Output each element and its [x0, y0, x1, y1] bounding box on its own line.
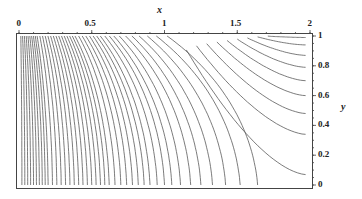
contour-line: [119, 36, 180, 185]
y-tick-label: 0.2: [318, 150, 329, 159]
contour-line: [197, 46, 306, 135]
y-tick-label: 0.8: [318, 61, 329, 70]
x-tick-label: 0.5: [85, 19, 96, 28]
x-tick-label: 0: [17, 19, 22, 28]
contour-line: [247, 38, 305, 56]
contour-line: [258, 37, 306, 45]
contour-line: [114, 36, 172, 185]
y-tick-label: 1: [318, 31, 323, 40]
y-axis-ticks: [312, 36, 316, 185]
x-tick-label: 2: [308, 19, 313, 28]
contour-line: [268, 36, 306, 37]
contour-line: [147, 36, 225, 185]
contour-line: [21, 36, 22, 185]
y-tick-label: 0: [318, 180, 323, 189]
x-tick-label: 1: [162, 19, 167, 28]
contour-line: [167, 36, 258, 185]
contour-line: [59, 36, 83, 185]
x-axis-title: x: [157, 4, 162, 15]
x-tick-label: 1.5: [230, 19, 241, 28]
contour-line: [23, 36, 25, 185]
y-tick-label: 0.6: [318, 91, 329, 100]
contour-plot: [0, 0, 362, 199]
contour-line: [237, 39, 305, 67]
contour-line: [67, 36, 96, 185]
contour-lines: [21, 36, 306, 185]
y-axis-title: y: [341, 101, 345, 112]
y-tick-label: 0.4: [318, 120, 329, 129]
x-axis-ticks: [19, 30, 310, 34]
